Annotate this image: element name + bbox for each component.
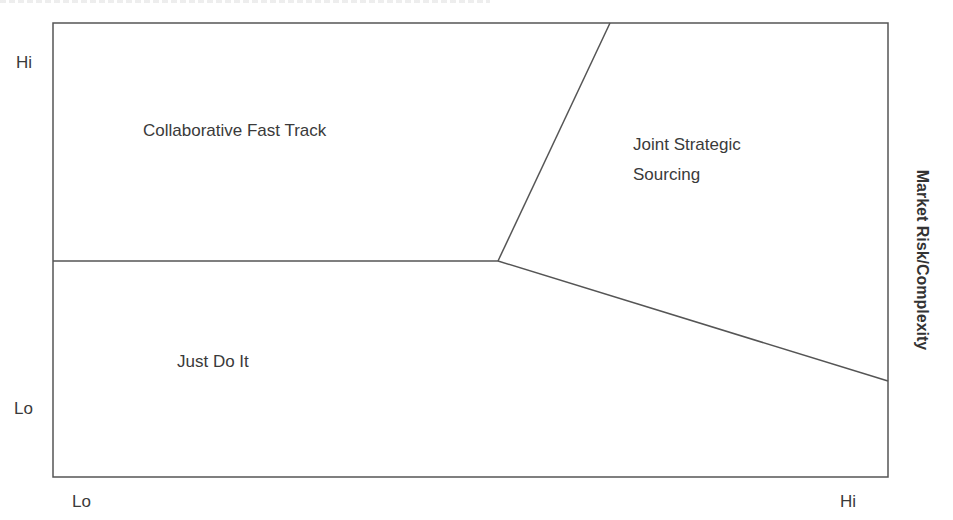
region-joint-strategic-line2: Sourcing <box>633 160 700 190</box>
x-axis-hi-label: Hi <box>840 492 856 512</box>
region-joint-strategic-line1: Joint Strategic <box>633 130 741 160</box>
diagonal-divider-upper <box>498 23 610 261</box>
region-collaborative-fast-track: Collaborative Fast Track <box>143 116 326 146</box>
y-axis-hi-label: Hi <box>16 53 32 73</box>
diagram-frame <box>53 23 888 477</box>
region-just-do-it: Just Do It <box>177 347 249 377</box>
x-axis-lo-label: Lo <box>72 492 91 512</box>
y-axis-lo-label: Lo <box>14 399 33 419</box>
segmentation-diagram <box>0 0 953 520</box>
diagonal-divider-lower <box>498 261 888 381</box>
y-axis-title: Market Risk/Complexity <box>913 170 931 351</box>
